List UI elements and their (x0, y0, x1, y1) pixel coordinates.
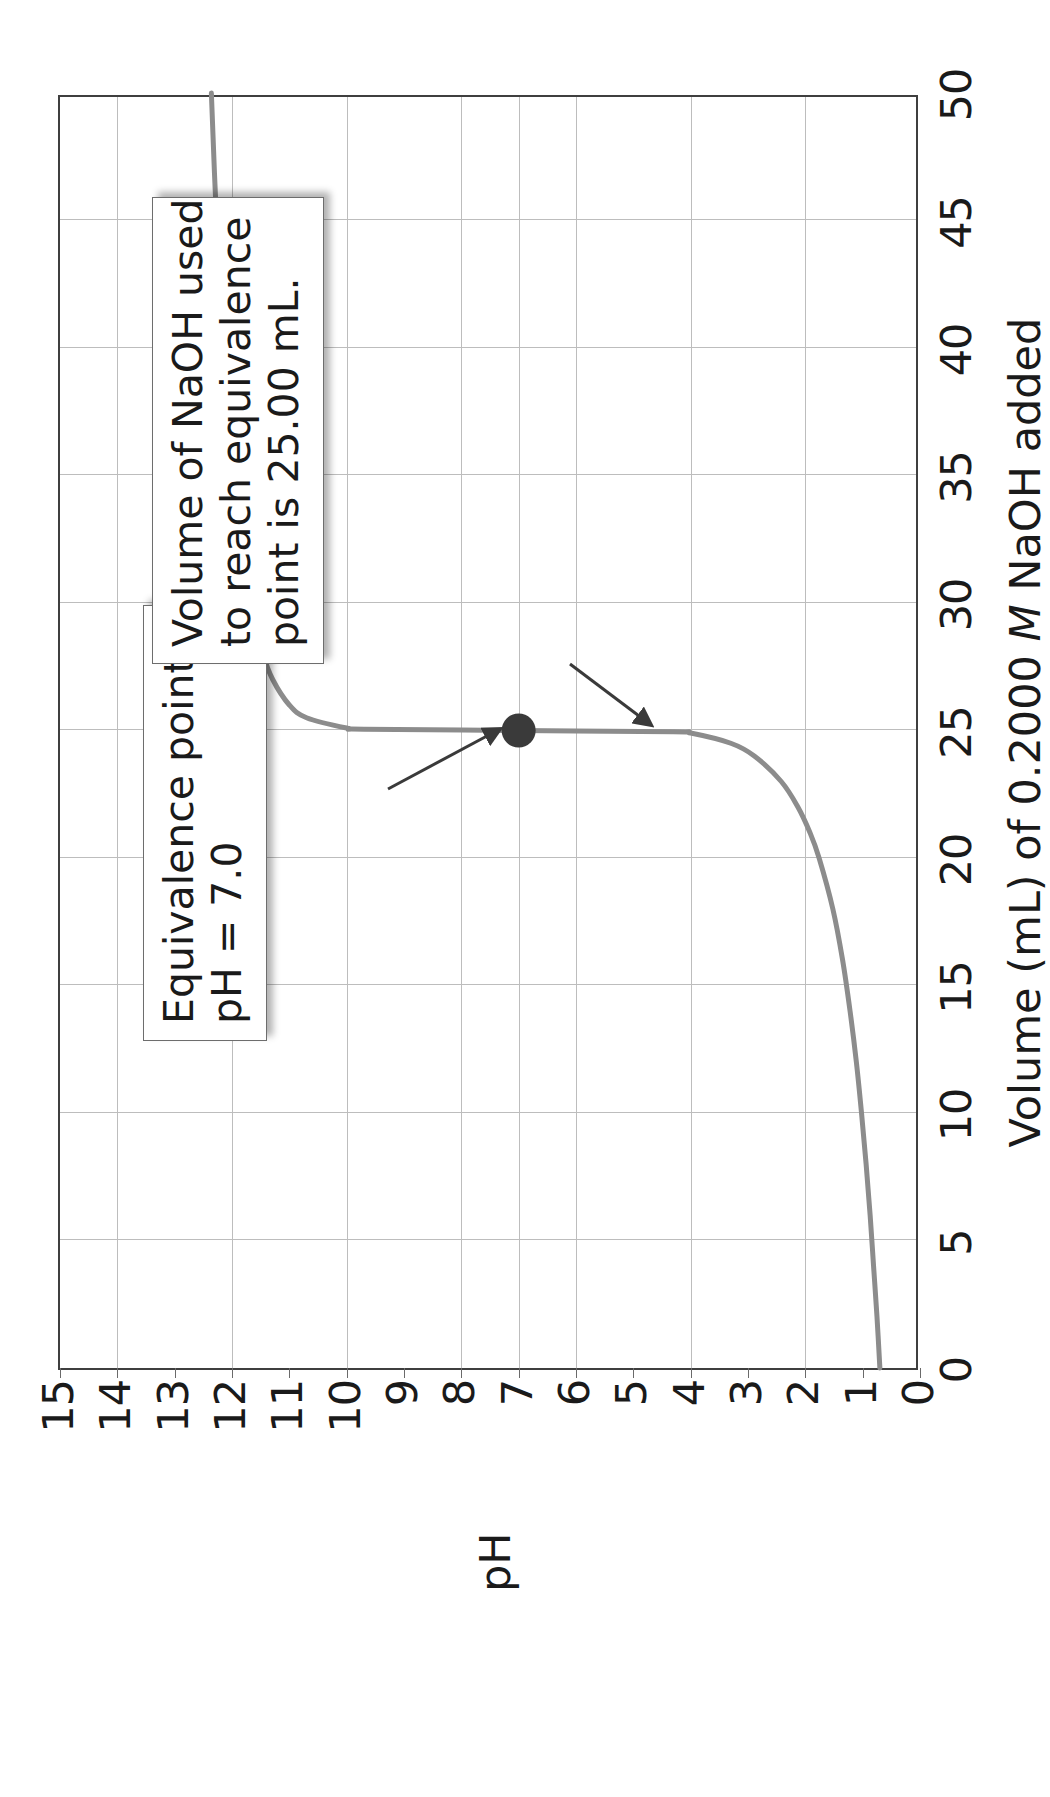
ytick-1 (863, 1368, 864, 1378)
ytick-14 (117, 1368, 118, 1378)
gridline-ph-2 (805, 97, 806, 1368)
ytick-label-6: 6 (553, 1380, 596, 1440)
ytick-label-8: 8 (438, 1380, 481, 1440)
xtick-label-20: 20 (935, 820, 978, 900)
callout-volume-line-2: to reach equivalence (213, 214, 261, 647)
ytick-label-13: 13 (152, 1380, 195, 1440)
ytick-label-15: 15 (37, 1380, 80, 1440)
ytick-label-14: 14 (94, 1380, 137, 1440)
xtick-label-30: 30 (935, 565, 978, 645)
ytick-9 (404, 1368, 405, 1378)
x-axis-title-after: NaOH added (1000, 318, 1050, 605)
ytick-label-11: 11 (266, 1380, 309, 1440)
ytick-7 (519, 1368, 520, 1378)
ytick-15 (60, 1368, 61, 1378)
gridline-ph-4 (691, 97, 692, 1368)
gridline-vol-5 (60, 1240, 916, 1241)
gridline-ph-6 (576, 97, 577, 1368)
xtick-label-50: 50 (935, 55, 978, 135)
ytick-label-9: 9 (381, 1380, 424, 1440)
xtick-label-25: 25 (935, 693, 978, 773)
gridline-vol-10 (60, 1112, 916, 1113)
ytick-6 (576, 1368, 577, 1378)
xtick-label-0: 0 (935, 1330, 978, 1410)
ytick-4 (691, 1368, 692, 1378)
xtick-label-40: 40 (935, 310, 978, 390)
ytick-0 (920, 1368, 921, 1378)
ytick-label-5: 5 (610, 1380, 653, 1440)
callout-equivalence-line-2: pH = 7.0 (204, 622, 252, 1024)
callout-volume-line-1: Volume of NaOH used (165, 214, 213, 647)
callout-equivalence-point: Equivalence point, pH = 7.0 (143, 605, 267, 1041)
callout-volume-used: Volume of NaOH used to reach equivalence… (152, 197, 324, 664)
ytick-label-2: 2 (782, 1380, 825, 1440)
ytick-3 (748, 1368, 749, 1378)
ytick-5 (633, 1368, 634, 1378)
ytick-label-3: 3 (725, 1380, 768, 1440)
xtick-label-5: 5 (935, 1203, 978, 1283)
ytick-label-1: 1 (840, 1380, 883, 1440)
gridline-ph-10 (347, 97, 348, 1368)
ytick-label-7: 7 (496, 1380, 539, 1440)
callout-volume-line-3: point is 25.00 mL. (261, 214, 309, 647)
y-axis-title: pH (470, 1532, 520, 1592)
xtick-label-45: 45 (935, 183, 978, 263)
x-axis-title-before: Volume (mL) of 0.2000 (1000, 641, 1050, 1147)
xtick-label-35: 35 (935, 438, 978, 518)
callout-equivalence-line-1: Equivalence point, (156, 622, 204, 1024)
ytick-label-0: 0 (897, 1380, 940, 1440)
x-axis-title-molarity-symbol: M (1000, 604, 1050, 641)
ytick-10 (347, 1368, 348, 1378)
ytick-2 (805, 1368, 806, 1378)
gridline-ph-8 (461, 97, 462, 1368)
ytick-8 (461, 1368, 462, 1378)
ytick-12 (232, 1368, 233, 1378)
ytick-13 (175, 1368, 176, 1378)
xtick-label-15: 15 (935, 948, 978, 1028)
ytick-label-10: 10 (324, 1380, 367, 1440)
xtick-label-10: 10 (935, 1075, 978, 1155)
ytick-11 (289, 1368, 290, 1378)
ytick-label-12: 12 (209, 1380, 252, 1440)
x-axis-title: Volume (mL) of 0.2000 M NaOH added (1000, 95, 1050, 1370)
gridline-ph-7 (519, 97, 520, 1368)
gridline-ph-14 (117, 97, 118, 1368)
ytick-label-4: 4 (668, 1380, 711, 1440)
